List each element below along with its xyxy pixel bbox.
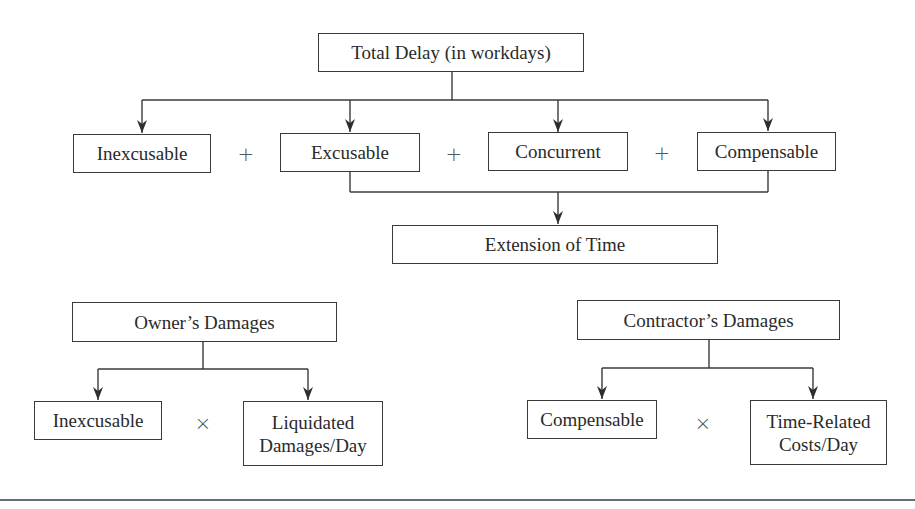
compensable-label: Compensable xyxy=(715,140,818,163)
total-delay-label: Total Delay (in workdays) xyxy=(351,41,551,64)
liquidated-damages-line1: Liquidated xyxy=(272,411,354,434)
inexcusable-label: Inexcusable xyxy=(97,142,188,165)
time-related-costs-line2: Costs/Day xyxy=(779,433,858,456)
plus-operator: + xyxy=(238,142,255,166)
liquidated-damages-line2: Damages/Day xyxy=(259,434,367,457)
owner-inexcusable-label: Inexcusable xyxy=(53,409,144,432)
compensable-box: Compensable xyxy=(697,132,836,171)
extension-of-time-box: Extension of Time xyxy=(392,225,718,264)
owners-damages-label: Owner’s Damages xyxy=(134,311,275,334)
excusable-label: Excusable xyxy=(311,141,389,164)
inexcusable-box: Inexcusable xyxy=(73,134,211,173)
owner-inexcusable-box: Inexcusable xyxy=(34,401,162,440)
contractor-compensable-box: Compensable xyxy=(527,400,657,439)
plus-operator: + xyxy=(446,142,463,166)
multiply-operator: × xyxy=(695,411,712,435)
multiply-operator: × xyxy=(195,411,212,435)
extension-of-time-label: Extension of Time xyxy=(485,233,625,256)
owners-damages-box: Owner’s Damages xyxy=(72,302,337,342)
total-delay-box: Total Delay (in workdays) xyxy=(318,33,584,72)
concurrent-box: Concurrent xyxy=(488,132,628,171)
contractors-damages-label: Contractor’s Damages xyxy=(623,309,793,332)
time-related-costs-line1: Time-Related xyxy=(767,410,871,433)
excusable-box: Excusable xyxy=(280,133,420,172)
time-related-costs-box: Time-Related Costs/Day xyxy=(750,400,887,465)
concurrent-label: Concurrent xyxy=(515,140,600,163)
contractors-damages-box: Contractor’s Damages xyxy=(577,300,840,340)
contractor-compensable-label: Compensable xyxy=(540,408,643,431)
plus-operator: + xyxy=(654,141,671,165)
liquidated-damages-box: Liquidated Damages/Day xyxy=(243,401,383,466)
